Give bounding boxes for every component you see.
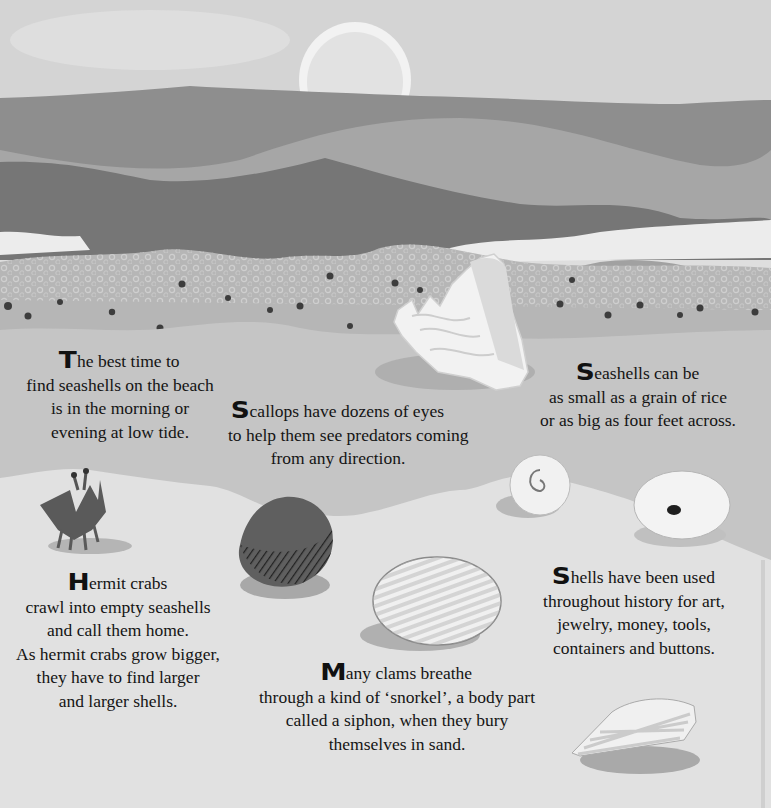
book-page: The best time to find seashells on the b… bbox=[0, 0, 771, 808]
dropcap: S bbox=[231, 401, 250, 419]
limpet-shell-icon bbox=[634, 471, 730, 547]
dropcap: H bbox=[67, 573, 89, 591]
passage-seashells-size: Seashells can be as small as a grain of … bbox=[530, 362, 746, 433]
dropcap: T bbox=[59, 351, 77, 369]
passage-clams: Many clams breathe through a kind of ‘sn… bbox=[252, 662, 542, 756]
passage-best-time: The best time to find seashells on the b… bbox=[16, 350, 224, 444]
dropcap: S bbox=[575, 363, 594, 381]
dropcap: M bbox=[320, 663, 346, 681]
passage-shells-used: Shells have been used throughout history… bbox=[524, 566, 744, 660]
passage-hermit-crabs: Hermit crabs crawl into empty seashells … bbox=[14, 572, 222, 713]
dropcap: S bbox=[552, 567, 571, 585]
passage-scallops: Scallops have dozens of eyes to help the… bbox=[228, 400, 448, 471]
